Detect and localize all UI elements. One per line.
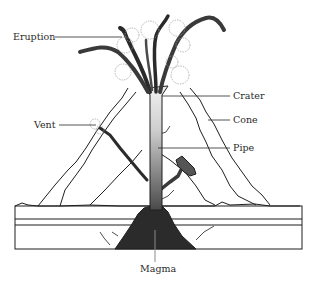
- label-eruption: Eruption: [13, 32, 55, 42]
- side-branch: [160, 168, 182, 190]
- label-magma: Magma: [140, 264, 176, 274]
- label-pipe: Pipe: [233, 143, 254, 153]
- eruption-plume: [80, 16, 224, 92]
- volcano-diagram: Eruption Vent Crater Cone Pipe Magma: [0, 0, 316, 284]
- label-crater: Crater: [233, 91, 264, 101]
- label-vent: Vent: [34, 120, 56, 130]
- label-cone: Cone: [233, 115, 258, 125]
- volcano-illustration: [0, 0, 316, 284]
- vent-branch: [100, 128, 147, 180]
